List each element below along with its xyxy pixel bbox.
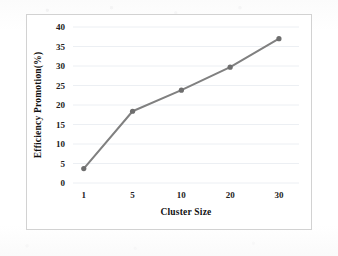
y-tick-label: 15 bbox=[56, 120, 66, 130]
y-tick-label: 5 bbox=[61, 159, 66, 169]
x-tick-label: 10 bbox=[177, 190, 187, 200]
data-point-marker bbox=[81, 166, 86, 171]
y-tick-label: 25 bbox=[56, 81, 66, 91]
chart-frame: 0510152025303540 15102030 Efficiency Pro… bbox=[26, 14, 312, 230]
data-series bbox=[81, 36, 281, 171]
data-point-marker bbox=[276, 36, 281, 41]
gridlines bbox=[73, 27, 299, 183]
y-axis-tick-labels: 0510152025303540 bbox=[56, 22, 66, 188]
data-point-marker bbox=[130, 109, 135, 114]
data-line bbox=[84, 39, 279, 169]
x-axis-tick-labels: 15102030 bbox=[82, 190, 284, 200]
y-tick-label: 40 bbox=[56, 22, 66, 32]
x-tick-label: 5 bbox=[130, 190, 135, 200]
y-tick-label: 0 bbox=[61, 178, 66, 188]
data-point-marker bbox=[179, 88, 184, 93]
x-tick-label: 30 bbox=[274, 190, 284, 200]
y-tick-label: 10 bbox=[56, 139, 66, 149]
x-axis-title: Cluster Size bbox=[160, 207, 211, 217]
y-tick-label: 35 bbox=[56, 42, 66, 52]
x-tick-label: 1 bbox=[82, 190, 87, 200]
data-point-marker bbox=[228, 65, 233, 70]
y-tick-label: 20 bbox=[56, 100, 66, 110]
y-tick-label: 30 bbox=[56, 61, 66, 71]
line-chart: 0510152025303540 15102030 Efficiency Pro… bbox=[27, 15, 311, 229]
x-tick-label: 20 bbox=[226, 190, 236, 200]
page-background: 0510152025303540 15102030 Efficiency Pro… bbox=[0, 0, 338, 256]
y-axis-title: Efficiency Promotion(%) bbox=[33, 52, 44, 159]
